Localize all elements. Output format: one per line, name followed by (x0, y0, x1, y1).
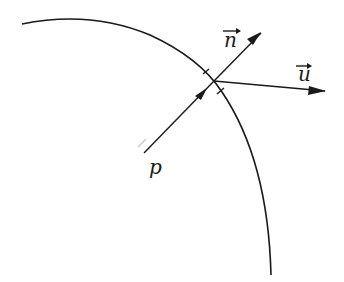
boundary-arc (22, 19, 271, 275)
label-p: p (149, 155, 162, 179)
direction-arrowhead (308, 86, 326, 95)
diagram-canvas: p n u (0, 0, 344, 282)
label-n-arrow-tip (236, 28, 241, 34)
incident-ray-faint-extension (138, 139, 146, 147)
normal-arrowhead (247, 32, 261, 45)
